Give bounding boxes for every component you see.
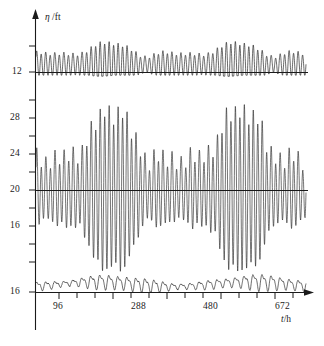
trace-lower-diurnal (36, 275, 306, 292)
y-axis-title: η /ft (45, 12, 61, 22)
x-axis-arrow-icon (304, 289, 314, 296)
x-tick-label-96: 96 (53, 301, 63, 311)
y-axis-arrow-icon (32, 9, 39, 19)
trace-upper-semidiurnal (36, 42, 306, 77)
x-tick-label-288: 288 (131, 301, 146, 311)
tide-record-chart: η /ft t/h 12 28 24 20 16 16 96 288 480 6… (0, 0, 324, 346)
x-axis-ticks (59, 293, 293, 300)
trace-middle-mixed (36, 105, 306, 272)
y-axis-unit: /ft (50, 12, 61, 22)
y-tick-label-12: 12 (12, 66, 22, 76)
chart-plot-area (0, 0, 324, 346)
x-axis-unit: /h (284, 314, 291, 324)
y-tick-label-24: 24 (10, 148, 20, 158)
x-axis-title: t/h (281, 314, 291, 324)
x-tick-label-480: 480 (203, 301, 218, 311)
y-tick-label-28: 28 (10, 112, 20, 122)
y-tick-label-16: 16 (10, 220, 20, 230)
y-tick-label-20: 20 (10, 184, 20, 194)
y-axis-ticks (29, 46, 36, 292)
y-tick-label-16-lower: 16 (10, 286, 20, 296)
x-tick-label-672: 672 (275, 301, 290, 311)
